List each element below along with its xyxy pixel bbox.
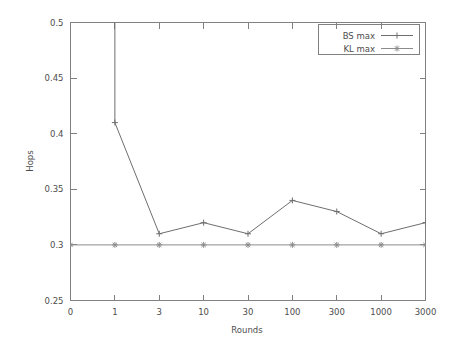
data-point: [289, 242, 295, 248]
legend-marker-2: [394, 46, 400, 52]
legend-label-2: KL max: [343, 44, 375, 54]
x-tick-label: 1: [112, 307, 117, 317]
y-tick-label: 0.45: [45, 73, 64, 83]
data-point: [201, 242, 207, 248]
data-point: [378, 242, 384, 248]
data-point: [334, 242, 340, 248]
chart-figure: 0.250.30.350.40.450.5 013103010030010003…: [0, 0, 453, 349]
data-point: [112, 242, 118, 248]
x-tick-label: 1000: [370, 307, 392, 317]
y-tick-label: 0.5: [50, 18, 64, 28]
y-tick-label: 0.3: [50, 240, 64, 250]
x-tick-label: 3000: [415, 307, 437, 317]
data-point: [156, 242, 162, 248]
y-tick-label: 0.25: [45, 296, 64, 306]
x-tick-label: 3: [157, 307, 162, 317]
data-point: [245, 242, 251, 248]
x-tick-label: 300: [329, 307, 345, 317]
line-chart: 0.250.30.350.40.450.5 013103010030010003…: [0, 0, 453, 349]
chart-background: [0, 0, 453, 349]
y-tick-label: 0.35: [45, 184, 64, 194]
legend-label-1: BS max: [343, 31, 375, 41]
x-axis-title: Rounds: [231, 325, 263, 335]
x-tick-label: 0: [68, 307, 73, 317]
x-tick-label: 100: [284, 307, 300, 317]
y-axis-title: Hops: [25, 150, 35, 172]
x-tick-label: 10: [198, 307, 209, 317]
x-tick-label: 30: [243, 307, 254, 317]
y-tick-label: 0.4: [50, 129, 64, 139]
